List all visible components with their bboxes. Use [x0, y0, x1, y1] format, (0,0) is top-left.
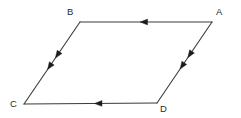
vertex-label-b: B	[67, 7, 73, 17]
edge-b-to-c	[24, 22, 80, 104]
arrowhead-bc-1	[55, 50, 62, 58]
edge-d-to-c	[24, 103, 157, 104]
arrowheads-group	[48, 19, 195, 106]
arrowhead-ad-1	[188, 50, 195, 58]
edge-a-to-d	[157, 22, 212, 103]
parallelogram-diagram	[0, 0, 241, 118]
arrowhead-ab-1	[140, 19, 148, 25]
arrowhead-bc-2	[48, 62, 55, 70]
arrowhead-dc-1	[94, 101, 102, 107]
vertex-label-a: A	[216, 7, 222, 17]
vertex-label-d: D	[160, 104, 167, 114]
geometry-figure-canvas: ABCD	[0, 0, 241, 118]
arrowhead-ad-2	[180, 61, 187, 69]
vertex-label-c: C	[10, 99, 17, 109]
